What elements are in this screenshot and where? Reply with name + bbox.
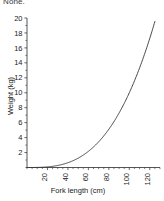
weight-vs-fork-length-chart: 2468101214161820 20406080100120 Weight (… (0, 0, 164, 201)
y-tick-label: 12 (14, 73, 22, 82)
y-tick-label: 10 (14, 88, 22, 97)
x-tick-label: 100 (122, 173, 131, 186)
y-tick-label: 4 (18, 133, 22, 142)
x-tick-label: 40 (61, 173, 70, 181)
y-tick-label: 8 (18, 103, 22, 112)
y-tick-label: 2 (18, 148, 22, 157)
x-tick-label: 20 (40, 173, 49, 181)
x-tick-label: 120 (143, 173, 152, 186)
x-tick-label: 80 (102, 173, 111, 181)
y-tick-label: 16 (14, 44, 22, 53)
y-axis-ticks (24, 18, 27, 168)
y-tick-label: 18 (14, 29, 22, 38)
y-tick-label: 20 (14, 14, 22, 23)
x-tick-label: 60 (81, 173, 90, 181)
x-axis-title: Fork length (cm) (51, 186, 106, 195)
data-series-curve (27, 22, 155, 168)
x-axis-tick-labels: 20406080100120 (40, 173, 151, 186)
figure-container: None. 2468101214161820 20406080100120 We… (0, 0, 164, 201)
y-tick-label: 6 (18, 118, 22, 127)
chart-axes (27, 18, 160, 168)
y-tick-label: 14 (14, 58, 22, 67)
y-axis-title: Weight (kg) (6, 76, 15, 115)
y-axis-tick-labels: 2468101214161820 (14, 14, 22, 158)
